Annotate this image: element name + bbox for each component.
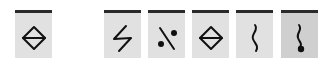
vertical-wave-icon	[241, 22, 269, 54]
diamond-bar-icon	[20, 22, 48, 54]
diamond-bar-icon	[197, 22, 225, 54]
wave-dot-button[interactable]	[281, 10, 318, 58]
diamond-bar-button[interactable]	[192, 10, 229, 58]
slash-dots-icon	[153, 22, 181, 54]
vertical-wave-button[interactable]	[236, 10, 273, 58]
slash-dots-button[interactable]	[148, 10, 185, 58]
zigzag-icon	[109, 22, 137, 54]
wave-dot-icon	[286, 22, 314, 54]
zigzag-button[interactable]	[104, 10, 141, 58]
current-symbol-button[interactable]	[15, 10, 52, 58]
